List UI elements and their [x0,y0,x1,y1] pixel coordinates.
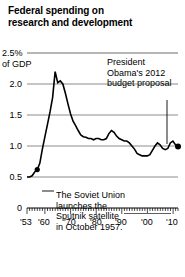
y-tick-label-2-0: 2.0 [0,79,22,89]
obama-annotation-line2: Obama's 2012 [107,68,172,79]
footer-rule [124,213,171,214]
chart-title-line1: Federal spending on [8,5,180,17]
y-axis-unit-top: 2.5% [2,48,23,58]
y-axis-unit-sub: of GDP [2,59,32,69]
endpoint-data-marker [175,144,181,150]
obama-annotation-line3: budget proposal [107,78,172,89]
sputnik-data-marker [35,167,40,172]
sputnik-annotation: The Soviet Union launches the Sputnik sa… [56,190,125,232]
y-tick-label-0: 0 [0,203,22,213]
sputnik-annotation-line1: The Soviet Union [56,190,125,201]
sputnik-annotation-line3: Sputnik satellite [56,211,125,222]
obama-annotation: President Obama's 2012 budget proposal [107,57,172,89]
y-tick-label-1-5: 1.5 [0,110,22,120]
chart-title: Federal spending on research and develop… [8,5,180,28]
chart-title-line2: research and development [8,17,180,29]
x-tick-label-00: '00 [141,217,153,227]
sputnik-annotation-line4: in October 1957. [56,222,125,233]
y-tick-label-1-0: 1.0 [0,141,22,151]
x-tick-label-53: '53 [20,217,32,227]
sputnik-annotation-line2: launches the [56,201,125,212]
y-tick-label-0-5: 0.5 [0,172,22,182]
x-tick-label-10: '10 [166,217,178,227]
obama-annotation-line1: President [107,57,172,68]
chart-figure: Federal spending on research and develop… [0,0,185,277]
x-tick-label-60: '60 [38,217,50,227]
